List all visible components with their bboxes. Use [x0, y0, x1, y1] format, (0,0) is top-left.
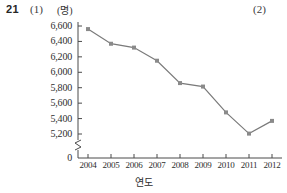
y-tick-label: 5,600 — [28, 98, 72, 108]
data-point-marker — [86, 27, 90, 31]
data-point-marker — [247, 132, 251, 136]
data-point-marker — [270, 119, 274, 123]
y-tick-label: 6,600 — [28, 21, 72, 31]
x-axis-title: 연도 — [0, 174, 287, 189]
data-point-marker — [224, 110, 228, 114]
x-tick-marks — [88, 154, 272, 158]
axis-break-symbol — [75, 140, 81, 150]
chart-page: 21 (1) (2) (명) 6,6006,4006,2006,0005,800… — [0, 0, 287, 193]
data-point-marker — [201, 85, 205, 89]
y-tick-label: 6,200 — [28, 52, 72, 62]
chart-axes — [75, 22, 282, 158]
y-tick-label: 0 — [28, 153, 72, 163]
data-point-markers — [86, 27, 274, 136]
data-point-marker — [132, 46, 136, 50]
y-tick-label: 5,800 — [28, 83, 72, 93]
y-tick-label: 6,000 — [28, 67, 72, 77]
y-tick-label: 5,200 — [28, 129, 72, 139]
y-tick-label: 5,400 — [28, 114, 72, 124]
y-tick-marks — [78, 26, 82, 134]
data-point-marker — [155, 59, 159, 63]
x-tick-label: 2012 — [257, 161, 287, 170]
y-tick-label: 6,400 — [28, 36, 72, 46]
data-point-marker — [178, 81, 182, 85]
data-point-marker — [109, 42, 113, 46]
